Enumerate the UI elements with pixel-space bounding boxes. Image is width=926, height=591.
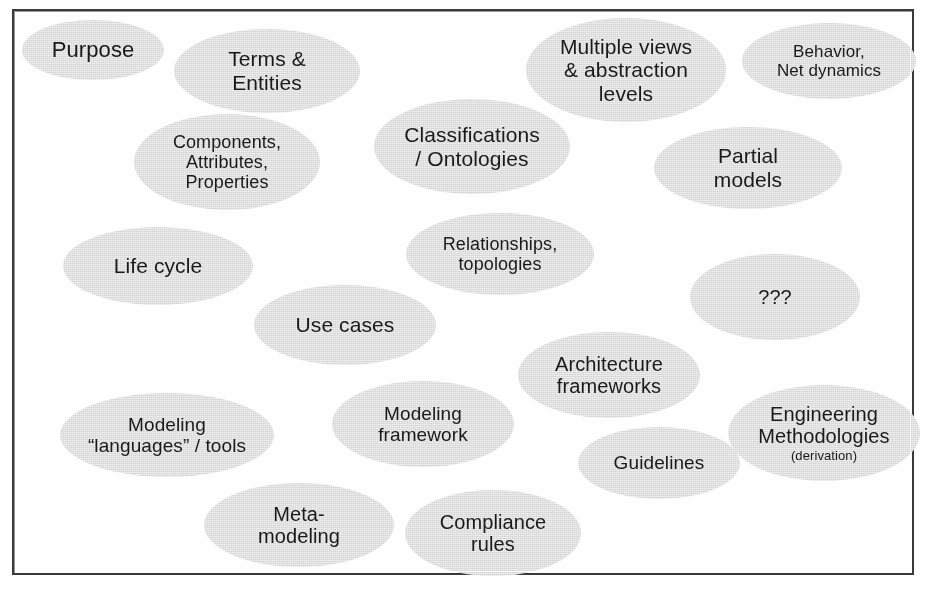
bubble-label: Guidelines [608,452,711,473]
bubble-partial-models: Partial models [654,127,842,209]
bubble-terms-entities: Terms & Entities [174,29,360,113]
bubble-label: Meta- modeling [252,503,346,548]
bubble-components-attributes-properties: Components, Attributes, Properties [134,114,320,210]
bubble-label: Classifications / Ontologies [398,123,546,170]
bubble-relationships-topologies: Relationships, topologies [406,213,594,295]
bubble-modeling-framework: Modeling framework [332,381,514,467]
bubble-guidelines: Guidelines [578,427,740,499]
bubble-use-cases: Use cases [254,285,436,365]
bubble-label: Compliance rules [434,511,553,556]
bubble-behavior-net-dynamics: Behavior, Net dynamics [742,23,916,99]
bubble-label: Relationships, topologies [437,234,563,274]
bubble-label: Components, Attributes, Properties [167,132,287,192]
bubble-meta-modeling: Meta- modeling [204,483,394,567]
bubble-compliance-rules: Compliance rules [405,490,581,576]
bubble-label: Use cases [290,313,401,337]
bubble-engineering-methodologies: Engineering Methodologies(derivation) [728,385,920,481]
bubble-architecture-frameworks: Architecture frameworks [518,332,700,418]
bubble-life-cycle: Life cycle [63,227,253,305]
bubble-label: Multiple views & abstraction levels [554,35,698,106]
bubble-label: Life cycle [108,254,209,278]
bubble-label: Modeling framework [372,403,474,446]
bubble-label: Terms & Entities [222,47,312,94]
bubble-label: Architecture frameworks [549,353,669,398]
bubble-purpose: Purpose [22,20,164,80]
diagram-canvas: PurposeTerms & EntitiesMultiple views & … [0,0,926,591]
bubble-unknown: ??? [690,254,860,340]
diagram-frame: PurposeTerms & EntitiesMultiple views & … [12,9,914,575]
bubble-label: Behavior, Net dynamics [771,42,887,80]
bubble-label: Purpose [46,38,141,63]
bubble-label: Engineering Methodologies(derivation) [752,403,895,463]
bubble-label: ??? [752,286,798,308]
bubble-label: Partial models [708,144,788,191]
bubble-multiple-views: Multiple views & abstraction levels [526,18,726,122]
bubble-modeling-languages-tools: Modeling “languages” / tools [60,393,274,477]
bubble-label: Modeling “languages” / tools [82,414,252,457]
bubble-sublabel: (derivation) [758,449,889,463]
bubble-classifications-ontologies: Classifications / Ontologies [374,99,570,194]
